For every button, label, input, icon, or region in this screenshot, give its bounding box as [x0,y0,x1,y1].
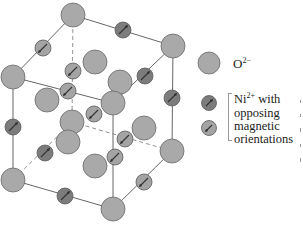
legend-icons [198,52,220,136]
legend-bracket [228,93,232,141]
legend-nickel-label: Ni2+ with opposing magnetic orientations [234,93,293,146]
legend-oxygen-label: O2− [233,57,251,72]
legend-oxygen-icon [198,52,220,74]
page-edge-marks [300,100,302,170]
